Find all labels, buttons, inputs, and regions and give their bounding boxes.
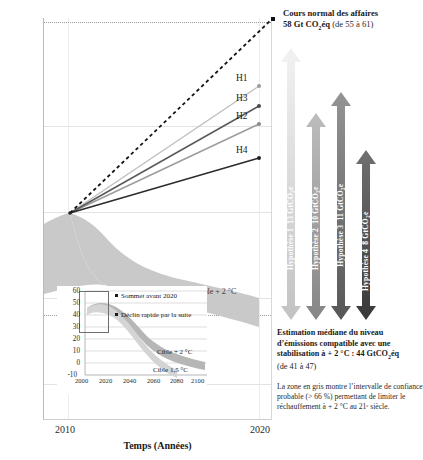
- callout-median-line2: d’émissions compatible avec une: [277, 339, 423, 350]
- inset-y-tick-0: 0: [62, 359, 80, 367]
- inset-y-tick-60: 60: [62, 287, 80, 295]
- callout-median-line3: stabilisation à + 2 °C : 44 GtCO: [277, 349, 388, 358]
- origin-dot: [68, 211, 72, 215]
- callout-median-estimate: Estimation médiane du niveau d’émissions…: [277, 328, 423, 372]
- callout-bau-value: 58 Gt CO: [283, 19, 318, 29]
- series-label-h3: H3: [236, 93, 248, 103]
- callout-bau-value-suffix: éq: [321, 19, 330, 29]
- inset-legend-item-decline: Déclin rapide par la suite: [115, 311, 191, 319]
- arrow-label-4: Hypothèse 4 8 GtCO2e: [361, 211, 372, 291]
- arrow-value-sub-4: 2: [365, 215, 371, 218]
- inset-x-tick-2080: 2080: [170, 377, 183, 384]
- arrow-label-2: Hypothèse 2 10 GtCO2e: [311, 187, 322, 271]
- arrow-value-1: 13 GtCO: [286, 193, 295, 224]
- series-label-h2: H2: [236, 111, 248, 121]
- inset-chart: 60 50 40 30 20 10 0 -10 2000 2020 2040 2…: [57, 286, 207, 395]
- inset-y-tick-10: 10: [62, 347, 80, 355]
- legend-marker-icon: [115, 294, 118, 297]
- arrow-label-1: Hypothèse 1 13 GtCO2e: [286, 187, 297, 271]
- callout-business-as-usual: Cours normal des affaires 58 Gt CO2éq (d…: [283, 8, 423, 32]
- arrow-bar-hypothese-3: Hypothèse 3 11 GtCO2e: [331, 92, 351, 320]
- inset-annotation-cible-2c: Cible + 2 °C: [157, 348, 192, 356]
- arrow-value-sub-2: 2: [315, 190, 321, 193]
- arrow-hypothesis-2: Hypothèse 2: [311, 228, 320, 270]
- arrow-value-sub-1: 2: [290, 190, 296, 193]
- inset-x-tick-2060: 2060: [147, 377, 160, 384]
- callout-median-range: (de 41 à 47): [277, 362, 423, 373]
- inset-y-tick-20: 20: [62, 335, 80, 343]
- inset-y-tick-30: 30: [62, 323, 80, 331]
- series-line-h1: [70, 86, 259, 213]
- arrow-value-3: 11 GtCO: [336, 190, 345, 220]
- callout-grey-zone-note: La zone en gris montre l’intervalle de c…: [277, 382, 423, 412]
- arrow-shape-1: [281, 48, 301, 320]
- inset-x-tick-2000: 2000: [75, 377, 88, 384]
- arrow-value-2: 10 GtCO: [311, 193, 320, 224]
- callout-median-line1: Estimation médiane du niveau: [277, 328, 423, 339]
- series-line-h2: [70, 124, 259, 213]
- arrow-label-3: Hypothèse 3 11 GtCO2e: [336, 184, 347, 267]
- x-axis-title: Temps (Années): [43, 440, 272, 451]
- arrow-value-sub-3: 2: [340, 187, 346, 190]
- inset-x-tick-2040: 2040: [123, 377, 136, 384]
- arrow-hypothesis-3: Hypothèse 3: [336, 225, 345, 267]
- inset-x-tick-2020: 2020: [99, 377, 112, 384]
- arrow-value-suffix-2: e: [311, 187, 320, 191]
- endpoint-dot-h2: [257, 122, 261, 126]
- arrow-value-4: 8 GtCO: [361, 218, 370, 245]
- inset-x-tick-2100: 2100: [191, 377, 204, 384]
- arrow-value-suffix-1: e: [286, 187, 295, 191]
- arrow-hypothesis-4: Hypothèse 4: [361, 249, 370, 291]
- arrow-value-suffix-4: e: [361, 211, 370, 215]
- inset-legend-item-peak: Sommet avant 2020: [115, 292, 177, 300]
- inset-highlight-box: [79, 291, 109, 333]
- arrow-bar-hypothese-1: Hypothèse 1 13 GtCO2e: [281, 48, 301, 320]
- callout-median-line3-suffix: éq: [391, 349, 399, 358]
- series-label-h4: H4: [236, 145, 248, 155]
- series-label-h1: H1: [236, 73, 248, 83]
- endpoint-dot-h3: [257, 104, 261, 108]
- inset-y-tick-50: 50: [62, 299, 80, 307]
- arrow-bar-hypothese-4: Hypothèse 4 8 GtCO2e: [356, 150, 376, 320]
- bau-endpoint-marker: [271, 17, 275, 21]
- arrow-bar-hypothese-2: Hypothèse 2 10 GtCO2e: [306, 113, 326, 320]
- legend-marker-icon: [115, 313, 118, 316]
- endpoint-dot-h1: [257, 84, 261, 88]
- inset-legend-label-peak: Sommet avant 2020: [121, 292, 177, 300]
- callout-bau-range: (de 55 à 61): [332, 19, 373, 29]
- inset-legend-label-decline: Déclin rapide par la suite: [121, 311, 191, 319]
- callout-bau-title: Cours normal des affaires: [283, 8, 423, 19]
- inset-annotation-cible-15c: Cible 1,5 °C: [153, 366, 188, 374]
- arrow-hypothesis-1: Hypothèse 1: [286, 228, 295, 270]
- x-tick-label-2020: 2020: [250, 424, 270, 435]
- endpoint-dot-h4: [257, 156, 261, 160]
- arrow-value-suffix-3: e: [336, 184, 345, 188]
- x-tick-label-2010: 2010: [55, 424, 75, 435]
- inset-y-tick-40: 40: [62, 311, 80, 319]
